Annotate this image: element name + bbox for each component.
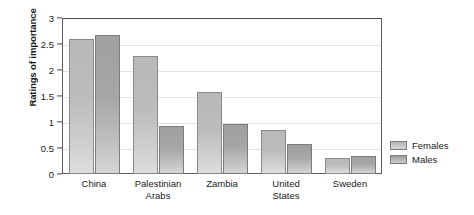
legend-swatch-females bbox=[390, 141, 407, 150]
x-axis-labels: ChinaPalestinianArabsZambiaUnitedStatesS… bbox=[62, 178, 382, 214]
x-axis-label: UnitedStates bbox=[254, 178, 318, 201]
bar-females-palestinian-arabs[interactable] bbox=[133, 56, 158, 174]
legend: Females Males bbox=[390, 140, 448, 168]
bar-males-zambia[interactable] bbox=[223, 124, 248, 174]
bar-females-united-states[interactable] bbox=[261, 130, 286, 174]
bar-females-china[interactable] bbox=[69, 39, 94, 174]
x-axis-label: PalestinianArabs bbox=[126, 178, 190, 201]
y-axis-tick-label: 0.5 bbox=[41, 143, 54, 154]
y-axis-tick-label: 1.5 bbox=[41, 91, 54, 102]
y-axis-tick-label: 1 bbox=[49, 117, 54, 128]
x-axis-label-line: Palestinian bbox=[126, 178, 190, 190]
x-axis-label-line: Zambia bbox=[190, 178, 254, 190]
bar-females-sweden[interactable] bbox=[325, 158, 350, 174]
x-axis-label-line: States bbox=[254, 190, 318, 202]
legend-item-males[interactable]: Males bbox=[390, 154, 448, 165]
bar-group bbox=[126, 18, 190, 174]
bar-males-sweden[interactable] bbox=[351, 156, 376, 174]
legend-label-females: Females bbox=[412, 140, 448, 151]
bar-group bbox=[254, 18, 318, 174]
x-axis-label: Zambia bbox=[190, 178, 254, 190]
x-axis-label-line: China bbox=[62, 178, 126, 190]
y-axis-tick-label: 2 bbox=[49, 65, 54, 76]
y-axis-tick-label: 0 bbox=[49, 169, 54, 180]
bar-chart-figure: Ratings of importance 00.511.522.53 Chin… bbox=[0, 0, 474, 215]
bar-males-united-states[interactable] bbox=[287, 144, 312, 174]
y-axis-tick-label: 2.5 bbox=[41, 39, 54, 50]
bar-group bbox=[62, 18, 126, 174]
x-axis-label-line: Arabs bbox=[126, 190, 190, 202]
y-axis-tick-label: 3 bbox=[49, 13, 54, 24]
bar-group bbox=[318, 18, 382, 174]
bar-males-china[interactable] bbox=[95, 35, 120, 174]
x-axis-label: Sweden bbox=[318, 178, 382, 190]
bar-males-palestinian-arabs[interactable] bbox=[159, 126, 184, 174]
x-axis-label-line: Sweden bbox=[318, 178, 382, 190]
bar-group bbox=[190, 18, 254, 174]
x-axis-label: China bbox=[62, 178, 126, 190]
legend-label-males: Males bbox=[412, 154, 437, 165]
y-axis-ticks: 00.511.522.53 bbox=[0, 0, 62, 215]
legend-item-females[interactable]: Females bbox=[390, 140, 448, 151]
legend-swatch-males bbox=[390, 155, 407, 164]
bars-layer bbox=[62, 18, 382, 174]
x-axis-label-line: United bbox=[254, 178, 318, 190]
bar-females-zambia[interactable] bbox=[197, 92, 222, 174]
